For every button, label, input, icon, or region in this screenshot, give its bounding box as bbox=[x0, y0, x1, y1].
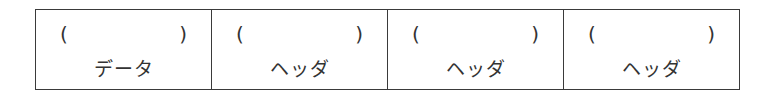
blank-open-paren: ( bbox=[236, 22, 244, 46]
blank-close-paren: ) bbox=[531, 22, 539, 46]
cell-header-1: ( ) ヘッダ bbox=[212, 10, 388, 89]
cell-data: ( ) データ bbox=[36, 10, 212, 89]
cell-label: ヘッダ bbox=[212, 54, 387, 81]
blank-open-paren: ( bbox=[60, 22, 68, 46]
blank-open-paren: ( bbox=[412, 22, 420, 46]
packet-structure-diagram: ( ) データ ( ) ヘッダ ( ) ヘッダ ( ) ヘッダ bbox=[35, 9, 740, 90]
cell-label: ヘッダ bbox=[388, 54, 563, 81]
cell-header-3: ( ) ヘッダ bbox=[564, 10, 739, 89]
cell-label: データ bbox=[36, 54, 211, 81]
cell-label: ヘッダ bbox=[564, 54, 739, 81]
blank-close-paren: ) bbox=[707, 22, 715, 46]
blank-open-paren: ( bbox=[588, 22, 596, 46]
blank-close-paren: ) bbox=[179, 22, 187, 46]
cell-header-2: ( ) ヘッダ bbox=[388, 10, 564, 89]
blank-close-paren: ) bbox=[355, 22, 363, 46]
